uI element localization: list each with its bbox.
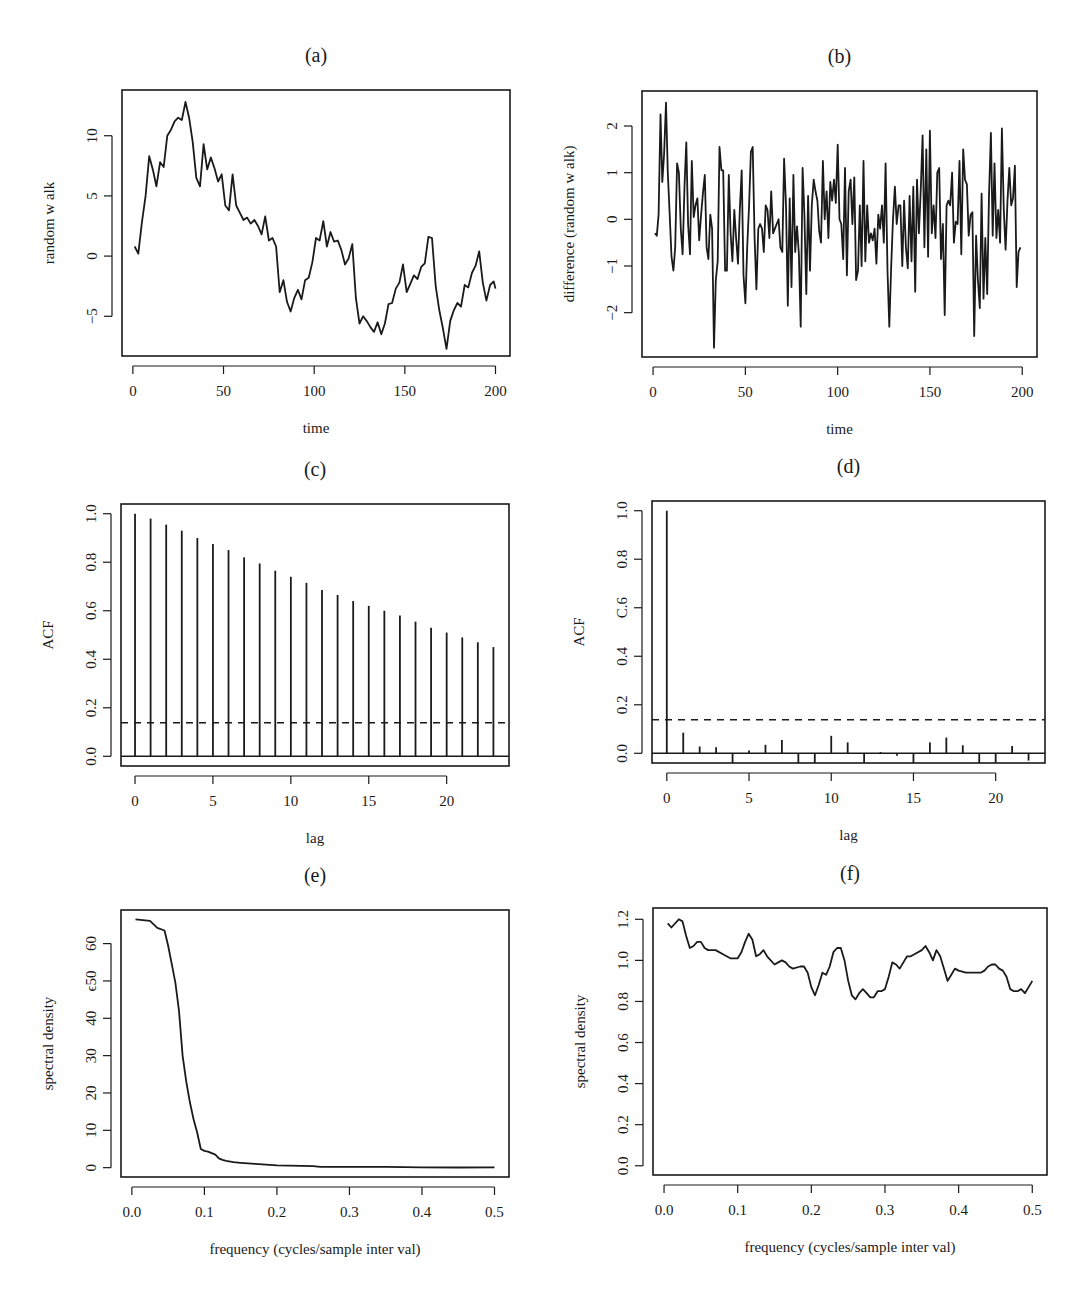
y-tick-label: 10 — [83, 1123, 99, 1138]
y-tick-label: 0.8 — [615, 992, 631, 1011]
y-axis: −2−1012 — [604, 122, 632, 320]
x-axis: 0.00.10.20.30.40.5 — [123, 1187, 504, 1220]
panel-f: (f)0.00.10.20.30.40.5frequency (cycles/s… — [572, 862, 1047, 1256]
x-axis-label: lag — [839, 827, 858, 843]
y-tick-label: 0 — [83, 1164, 99, 1172]
x-tick-label: 200 — [1011, 384, 1034, 400]
plot-frame — [121, 910, 509, 1177]
y-tick-label: 0.2 — [615, 1115, 631, 1134]
y-tick-label: 1.0 — [83, 504, 99, 523]
x-tick-label: 100 — [303, 383, 326, 399]
y-tick-label: 20 — [83, 1085, 99, 1100]
y-axis: −50510 — [84, 128, 112, 324]
x-tick-label: 15 — [906, 790, 921, 806]
y-axis: 0.00.20.4C.60.81.0 — [614, 501, 642, 762]
y-axis-label: difference (random w alk) — [561, 146, 578, 303]
y-tick-label: −2 — [604, 305, 620, 321]
y-tick-label: 0.8 — [614, 550, 630, 569]
y-tick-label: 0 — [604, 216, 620, 224]
x-axis-label: frequency (cycles/sample inter val) — [209, 1241, 420, 1258]
y-axis-label: spectral density — [40, 996, 56, 1090]
figure: (a)050100150200time−50510random w alk(b)… — [0, 0, 1084, 1290]
y-tick-label: 1 — [604, 169, 620, 177]
panel-title: (d) — [837, 455, 860, 478]
panel-c: (c)05101520lag0.00.20.40.60.81.0ACF — [40, 458, 509, 846]
x-tick-label: 0.0 — [123, 1204, 142, 1220]
y-tick-label: 1.0 — [614, 501, 630, 520]
y-axis-label: random w alk — [41, 181, 57, 264]
x-tick-label: 200 — [484, 383, 507, 399]
x-tick-label: 10 — [283, 793, 298, 809]
x-axis-label: time — [303, 420, 330, 436]
plot-area — [655, 103, 1021, 348]
panel-title: (e) — [304, 864, 326, 887]
y-tick-label: 10 — [84, 128, 100, 143]
x-tick-label: 0.2 — [802, 1202, 821, 1218]
y-tick-label: −1 — [604, 258, 620, 274]
panel-title: (f) — [840, 862, 860, 885]
y-tick-label: 2 — [604, 122, 620, 130]
y-tick-label: 0.4 — [83, 649, 99, 668]
plot-area — [668, 919, 1033, 999]
y-tick-label: 30 — [83, 1048, 99, 1063]
plot-frame — [653, 908, 1047, 1175]
x-tick-label: 5 — [745, 790, 753, 806]
plot-frame — [652, 501, 1045, 763]
y-tick-label: 0.4 — [615, 1074, 631, 1093]
x-axis: 05101520 — [131, 776, 454, 809]
x-tick-label: 0.3 — [876, 1202, 895, 1218]
x-tick-label: 10 — [824, 790, 839, 806]
x-tick-label: 0 — [663, 790, 671, 806]
y-tick-label: C.6 — [614, 597, 630, 619]
x-tick-label: 0.3 — [340, 1204, 359, 1220]
y-tick-label: ϵ50 — [83, 970, 99, 991]
panel-a: (a)050100150200time−50510random w alk — [41, 44, 510, 436]
y-tick-label: 1.0 — [615, 951, 631, 970]
x-tick-label: 0.4 — [949, 1202, 968, 1218]
y-tick-label: 0.2 — [83, 698, 99, 717]
series-line — [136, 919, 495, 1167]
y-axis-label: spectral density — [572, 994, 588, 1088]
x-tick-label: 0 — [649, 384, 657, 400]
x-tick-label: 0 — [129, 383, 137, 399]
y-tick-label: 0 — [84, 252, 100, 260]
x-axis-label: frequency (cycles/sample inter val) — [744, 1239, 955, 1256]
y-axis-label: ACF — [571, 617, 587, 646]
x-tick-label: 15 — [361, 793, 376, 809]
series-line — [135, 102, 496, 349]
panel-title: (b) — [828, 45, 851, 68]
plot-area — [135, 102, 496, 349]
y-tick-label: 60 — [83, 936, 99, 951]
y-tick-label: 1.2 — [615, 910, 631, 929]
y-tick-label: −5 — [84, 308, 100, 324]
y-tick-label: 0.8 — [83, 553, 99, 572]
y-tick-label: 0.6 — [615, 1033, 631, 1052]
y-axis: 010203040ϵ5060 — [83, 936, 111, 1171]
plot-frame — [121, 504, 509, 766]
panel-d: (d)05101520lag0.00.20.4C.60.81.0ACF — [571, 455, 1045, 843]
x-axis: 050100150200 — [649, 367, 1033, 400]
y-tick-label: 0.4 — [614, 646, 630, 665]
x-axis: 050100150200 — [129, 366, 507, 399]
x-tick-label: 150 — [394, 383, 417, 399]
x-axis: 0.00.10.20.30.40.5 — [655, 1185, 1042, 1218]
x-tick-label: 150 — [919, 384, 942, 400]
x-tick-label: 5 — [209, 793, 217, 809]
x-tick-label: 0.1 — [195, 1204, 214, 1220]
y-tick-label: 5 — [84, 192, 100, 200]
x-tick-label: 0.5 — [485, 1204, 504, 1220]
x-axis-label: lag — [306, 830, 325, 846]
y-tick-label: 0.6 — [83, 601, 99, 620]
plot-area — [136, 919, 495, 1167]
y-tick-label: 0.2 — [614, 695, 630, 714]
y-tick-label: 40 — [83, 1011, 99, 1026]
x-tick-label: 0 — [131, 793, 139, 809]
y-axis-label: ACF — [40, 620, 56, 649]
panel-e: (e)0.00.10.20.30.40.5frequency (cycles/s… — [40, 864, 509, 1258]
x-tick-label: 0.1 — [728, 1202, 747, 1218]
y-axis: 0.00.20.40.60.81.0 — [83, 504, 111, 765]
x-tick-label: 0.4 — [413, 1204, 432, 1220]
x-axis-label: time — [826, 421, 853, 437]
x-axis: 05101520 — [663, 773, 1003, 806]
y-tick-label: 0.0 — [614, 744, 630, 763]
